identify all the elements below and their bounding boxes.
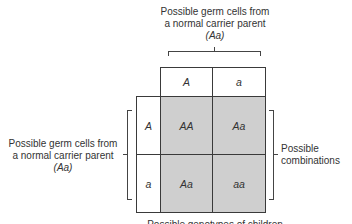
top-bracket-right	[260, 51, 261, 56]
left-parent-label: Possible germ cells from a normal carrie…	[2, 138, 124, 174]
row-header-A: A	[136, 96, 161, 155]
left-bracket-bar	[127, 110, 128, 200]
left-bracket-bottom	[127, 199, 132, 200]
top-parent-genotype: (Aa)	[140, 30, 290, 42]
right-label-line1: Possible	[281, 143, 351, 155]
left-parent-genotype: (Aa)	[2, 162, 124, 174]
cell-AA: AA	[160, 96, 213, 155]
top-bracket-left	[168, 51, 169, 56]
left-parent-line2: a normal carrier parent	[2, 150, 124, 162]
cell-aa: aa	[212, 154, 266, 213]
col-header-a: a	[212, 67, 266, 97]
top-bracket-bar	[168, 51, 261, 52]
left-bracket-top	[127, 110, 132, 111]
top-parent-line1: Possible germ cells from	[140, 6, 290, 18]
bottom-label: Possible genotypes of children	[140, 219, 290, 224]
cell-Aa-top: Aa	[212, 96, 266, 155]
right-bracket-top	[269, 110, 274, 111]
cell-Aa-bottom: Aa	[160, 154, 213, 213]
right-combinations-label: Possible combinations	[281, 143, 351, 167]
right-bracket-bar	[273, 110, 274, 200]
right-label-line2: combinations	[281, 155, 351, 167]
row-header-a: a	[136, 154, 161, 213]
left-bracket-tick	[123, 154, 128, 155]
top-parent-label: Possible germ cells from a normal carrie…	[140, 6, 290, 42]
top-parent-line2: a normal carrier parent	[140, 18, 290, 30]
col-header-A: A	[160, 67, 213, 97]
right-bracket-tick	[273, 154, 278, 155]
right-bracket-bottom	[269, 199, 274, 200]
left-parent-line1: Possible germ cells from	[2, 138, 124, 150]
